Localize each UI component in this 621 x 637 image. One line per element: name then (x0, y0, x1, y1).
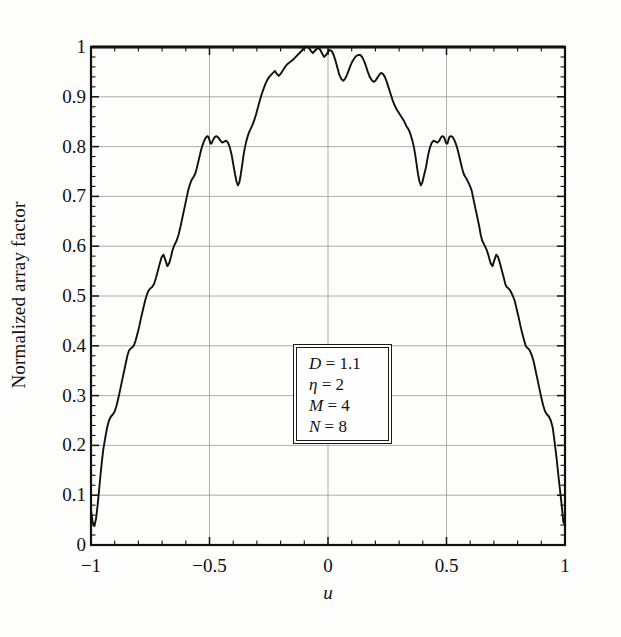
annotation-value: 8 (338, 417, 347, 436)
figure-container: Normalized array factor 00.10.20.30.40.5… (0, 0, 621, 637)
annotation-row: D = 1.1 (297, 353, 388, 374)
gridlines (91, 47, 565, 545)
annotation-symbol: N (309, 417, 320, 436)
annotation-equals: = (320, 417, 338, 436)
chart-plot-area (0, 0, 621, 637)
annotation-value: 2 (336, 375, 345, 394)
annotation-symbol: M (309, 396, 323, 415)
annotation-symbol: D (309, 354, 321, 373)
annotation-equals: = (323, 396, 341, 415)
annotation-row: N = 8 (297, 416, 388, 437)
annotation-equals: = (321, 354, 339, 373)
annotation-row: η = 2 (297, 374, 388, 395)
annotation-row: M = 4 (297, 395, 388, 416)
annotation-value: 4 (341, 396, 350, 415)
parameter-annotation-box: D = 1.1 η = 2 M = 4 N = 8 (296, 347, 389, 441)
annotation-value: 1.1 (339, 354, 360, 373)
annotation-equals: = (317, 375, 335, 394)
